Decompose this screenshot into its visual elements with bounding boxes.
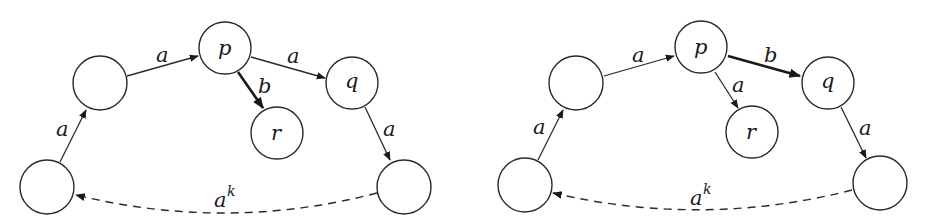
right-diagram: a a b a a a k p r q: [498, 21, 907, 212]
left-diagram: a a a b a a k p r q: [20, 22, 431, 214]
node-bottom-left: [498, 158, 552, 212]
node-bottom-left: [20, 160, 74, 214]
edge-label-br-bl-superscript: k: [227, 183, 235, 199]
edge-label-lu-p: a: [156, 43, 169, 67]
edge-label-q-br: a: [383, 117, 396, 141]
edge-label-br-bl-superscript: k: [703, 181, 711, 197]
edge-label-bl-lu: a: [533, 115, 546, 139]
node-p-label: p: [218, 36, 231, 60]
edge-label-lu-p: a: [632, 43, 645, 67]
node-q-label: q: [345, 69, 358, 93]
edge-label-q-br: a: [859, 116, 872, 140]
node-q-label: q: [821, 69, 834, 93]
node-left-upper: [549, 56, 603, 110]
node-bottom-right: [853, 156, 907, 210]
edge-label-p-r: a: [732, 73, 745, 97]
edge-label-br-bl: a: [214, 188, 227, 212]
node-left-upper: [73, 56, 127, 110]
edge-label-p-q: a: [287, 44, 300, 68]
edge-label-bl-lu: a: [56, 117, 69, 141]
edge-label-p-r: b: [258, 74, 271, 98]
automaton-diagrams: a a a b a a k p r q a a b a a: [0, 0, 928, 224]
node-bottom-right: [377, 160, 431, 214]
node-p-label: p: [694, 35, 707, 59]
edge-label-p-q: b: [764, 43, 777, 67]
edge-label-br-bl: a: [690, 186, 703, 210]
